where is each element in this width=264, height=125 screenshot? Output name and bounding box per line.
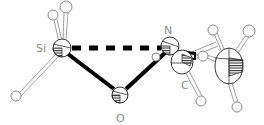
bold-bonds xyxy=(68,52,166,89)
hydrogen-atom xyxy=(198,51,208,61)
hydrogen-atom xyxy=(196,96,206,106)
o-atom xyxy=(112,87,128,103)
molecule-diagram: Si O N C xyxy=(0,0,264,125)
hydrogen-atom xyxy=(243,25,255,37)
o-label: O xyxy=(116,112,125,125)
c2-atom xyxy=(215,48,243,84)
hydrogen-atom xyxy=(152,53,160,61)
n-label: N xyxy=(164,24,172,37)
hydrogen-atom xyxy=(11,91,21,101)
hydrogen-atom xyxy=(48,10,58,20)
c1-atom xyxy=(171,50,193,74)
hydrogen-atom xyxy=(232,102,242,112)
hydrogen-atom xyxy=(60,1,72,13)
si-atom xyxy=(53,39,71,57)
si-label: Si xyxy=(36,42,46,55)
hydrogen-atom xyxy=(208,25,218,35)
c-label: C xyxy=(181,79,189,92)
